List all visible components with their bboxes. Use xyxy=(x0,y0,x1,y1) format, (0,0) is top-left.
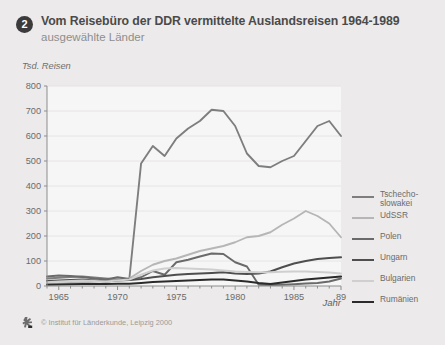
x-axis-label: Jahr xyxy=(322,297,342,308)
legend-label: Polen xyxy=(380,232,444,241)
y-tick-label: 400 xyxy=(26,181,41,191)
x-axis-ticks: 1965197019751980198589 xyxy=(47,286,346,302)
y-tick-label: 800 xyxy=(26,81,41,91)
legend-item[interactable]: UdSSR xyxy=(352,211,444,232)
y-tick-label: 100 xyxy=(26,256,41,266)
y-tick-label: 300 xyxy=(26,206,41,216)
x-tick-label: 1965 xyxy=(49,292,69,302)
legend-swatch xyxy=(352,217,374,219)
legend-label: Bulgarien xyxy=(380,274,444,283)
legend-swatch xyxy=(352,280,374,282)
legend-swatch xyxy=(352,259,374,261)
copyright-credit: © Institut für Länderkunde, Leipzig 2000 xyxy=(41,318,172,327)
x-tick-label: 1980 xyxy=(225,292,245,302)
legend-swatch xyxy=(352,196,374,198)
institut-logo-icon xyxy=(22,316,35,329)
y-tick-label: 600 xyxy=(26,131,41,141)
legend-item[interactable]: Rumänien xyxy=(352,295,444,316)
x-tick-label: 1970 xyxy=(107,292,127,302)
legend-label: Tschecho-slowakei xyxy=(380,190,444,209)
y-tick-label: 500 xyxy=(26,156,41,166)
y-tick-label: 0 xyxy=(36,281,41,291)
x-tick-label: 1975 xyxy=(166,292,186,302)
legend-item[interactable]: Polen xyxy=(352,232,444,253)
y-tick-label: 700 xyxy=(26,106,41,116)
legend-item[interactable]: Tschecho-slowakei xyxy=(352,190,444,211)
chart-card: 2 Vom Reisebüro der DDR vermittelte Ausl… xyxy=(0,0,445,345)
x-tick-label: 1985 xyxy=(284,292,304,302)
legend-item[interactable]: Bulgarien xyxy=(352,274,444,295)
legend-label: Ungarn xyxy=(380,253,444,262)
legend-label: Rumänien xyxy=(380,295,444,304)
legend-swatch xyxy=(352,238,374,240)
legend-item[interactable]: Ungarn xyxy=(352,253,444,274)
chart-legend: Tschecho-slowakeiUdSSRPolenUngarnBulgari… xyxy=(352,190,444,316)
y-tick-label: 200 xyxy=(26,231,41,241)
legend-swatch xyxy=(352,301,374,303)
y-axis-ticks: 0100200300400500600700800 xyxy=(26,81,47,291)
legend-label: UdSSR xyxy=(380,211,444,220)
